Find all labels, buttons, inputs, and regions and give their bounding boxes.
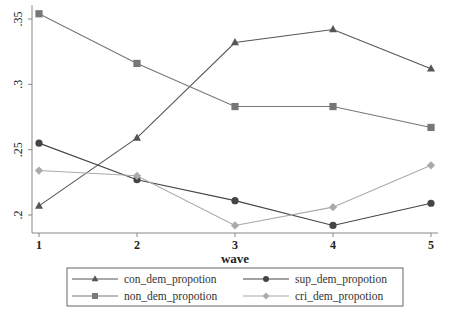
diamond-marker: [231, 221, 239, 229]
circle-marker: [263, 276, 269, 282]
series-con-dem-propotion: [35, 25, 435, 209]
circle-marker: [35, 140, 42, 147]
series-line: [39, 29, 431, 205]
y-tick-label: .25: [11, 142, 25, 157]
triangle-marker: [329, 25, 337, 32]
triangle-marker: [35, 201, 43, 208]
square-marker: [427, 124, 434, 131]
x-axis-title: wave: [221, 251, 249, 266]
circle-marker: [427, 200, 434, 207]
x-tick-label: 3: [232, 238, 238, 252]
series-sup-dem-propotion: [35, 140, 434, 230]
diamond-marker: [329, 203, 337, 211]
x-tick-label: 2: [134, 238, 140, 252]
legend-label: non_dem_propotion: [124, 290, 218, 303]
circle-marker: [329, 222, 336, 229]
y-ticks: .2.25.3.35: [11, 12, 32, 220]
square-marker: [231, 103, 238, 110]
line-chart: .2.25.3.35 12345 wave con_dem_propotions…: [0, 0, 452, 314]
square-marker: [35, 10, 42, 17]
circle-marker: [231, 197, 238, 204]
y-tick-label: .2: [11, 211, 25, 220]
diamond-marker: [35, 166, 43, 174]
x-tick-label: 1: [36, 238, 42, 252]
x-tick-label: 5: [428, 238, 434, 252]
series-line: [39, 143, 431, 225]
series-line: [39, 14, 431, 128]
legend-label: cri_dem_propotion: [295, 290, 383, 303]
square-marker: [133, 60, 140, 67]
x-tick-label: 4: [330, 238, 336, 252]
legend: con_dem_propotionsup_dem_propotionnon_de…: [67, 268, 403, 306]
series-group: [35, 10, 435, 229]
y-tick-label: .35: [11, 12, 25, 27]
series-non-dem-propotion: [35, 10, 434, 131]
series-cri-dem-propotion: [35, 161, 435, 229]
diamond-marker: [427, 161, 435, 169]
y-tick-label: .3: [11, 80, 25, 89]
legend-label: sup_dem_propotion: [295, 273, 387, 286]
x-ticks: 12345: [36, 233, 434, 252]
legend-label: con_dem_propotion: [124, 273, 217, 286]
square-marker: [92, 293, 98, 299]
square-marker: [329, 103, 336, 110]
